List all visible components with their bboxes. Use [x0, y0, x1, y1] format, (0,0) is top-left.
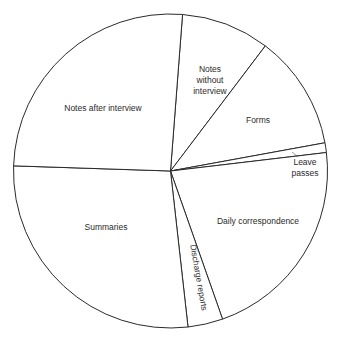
label-leave-passes-1: Leave: [293, 157, 316, 167]
pie-slices: [13, 14, 327, 328]
label-forms: Forms: [246, 115, 270, 125]
label-leave-passes-2: passes: [292, 168, 319, 178]
label-summaries: Summaries: [85, 222, 128, 232]
label-notes-without-interview-3: interview: [193, 86, 227, 96]
label-notes-after-interview: Notes after interview: [64, 103, 142, 113]
slice-summaries: [13, 166, 188, 328]
label-notes-without-interview-2: without: [196, 75, 225, 85]
pie-chart: Notes without interview Forms Leave pass…: [0, 0, 337, 337]
slice-notes-after-interview: [14, 14, 183, 171]
label-daily-correspondence: Daily correspondence: [217, 216, 299, 226]
label-notes-without-interview-1: Notes: [199, 64, 221, 74]
